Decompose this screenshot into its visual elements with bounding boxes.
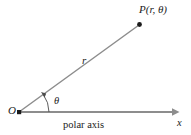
polar-coordinate-diagram: O P(r, θ) r θ x polar axis — [0, 0, 191, 135]
x-axis-label: x — [177, 118, 182, 129]
x-axis-arrowhead — [172, 108, 180, 116]
point-p-marker — [137, 22, 142, 27]
polar-axis-caption: polar axis — [63, 120, 104, 131]
origin-point-marker — [17, 110, 21, 114]
point-p-label: P(r, θ) — [139, 4, 167, 15]
angle-label: θ — [54, 96, 59, 107]
radius-label: r — [82, 55, 86, 66]
diagram-canvas — [0, 0, 191, 135]
radius-line — [19, 25, 139, 112]
polar-axis-line — [19, 108, 180, 116]
origin-label: O — [8, 105, 16, 116]
